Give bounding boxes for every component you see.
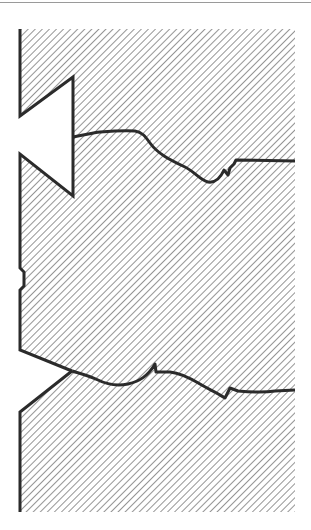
hatched-body bbox=[20, 29, 295, 512]
cross-section-diagram bbox=[0, 0, 311, 530]
